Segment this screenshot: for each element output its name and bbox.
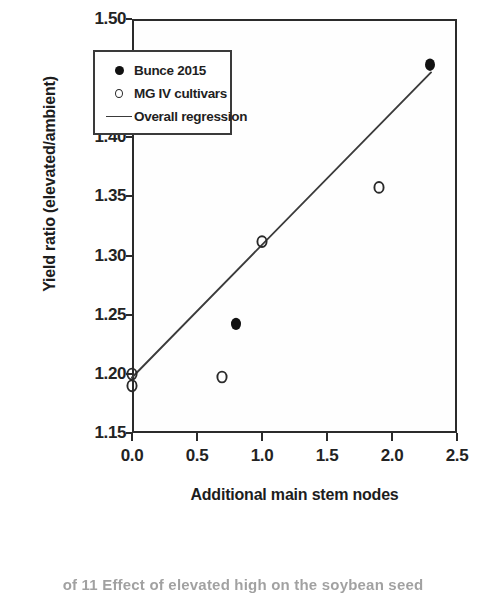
legend: Bunce 2015 MG IV cultivars Overall regre… <box>93 50 232 135</box>
legend-item-bunce-2015: Bunce 2015 <box>95 59 230 82</box>
data-point-filled <box>425 58 435 70</box>
x-axis-title: Additional main stem nodes <box>132 486 457 504</box>
data-point-filled <box>231 318 241 330</box>
legend-item-mg-iv-cultivars: MG IV cultivars <box>95 82 230 105</box>
legend-label: MG IV cultivars <box>134 86 227 101</box>
plot-canvas <box>0 0 486 593</box>
data-point-open <box>374 182 383 193</box>
data-point-open <box>127 380 136 391</box>
series-mg-iv-cultivars <box>127 182 383 391</box>
legend-item-overall-regression: Overall regression <box>95 105 230 128</box>
x-axis-ticks <box>132 433 457 441</box>
caption-text: of 11 Effect of elevated high on the soy… <box>0 576 486 593</box>
legend-label: Bunce 2015 <box>134 63 206 78</box>
legend-label: Overall regression <box>134 109 247 124</box>
figure-container: 1.50 1.45 1.40 1.35 1.30 1.25 1.20 1.15 … <box>0 0 486 593</box>
y-axis-title: Yield ratio (elevated/ambient) <box>41 0 59 374</box>
filled-circle-icon <box>104 66 134 75</box>
data-point-open <box>217 372 226 383</box>
line-swatch-icon <box>104 116 134 117</box>
open-circle-icon <box>104 89 134 98</box>
